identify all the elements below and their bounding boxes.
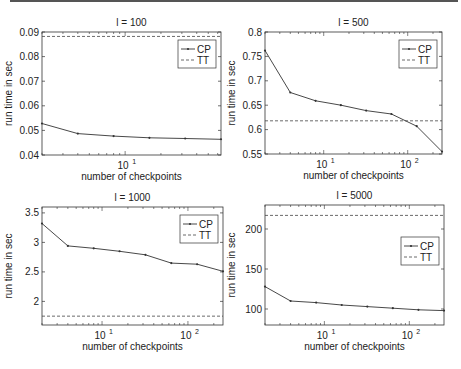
series-cp-marker <box>390 113 392 115</box>
series-cp-marker <box>77 132 79 134</box>
series-cp-marker <box>289 300 291 302</box>
series-cp-marker <box>341 304 343 306</box>
y-axis-label: run time in sec <box>226 232 237 297</box>
series-cp-marker <box>441 150 443 152</box>
y-tick-label: 0.06 <box>20 100 40 111</box>
x-tick-exponent: 2 <box>415 157 419 164</box>
y-tick-label: 0.8 <box>248 27 262 38</box>
x-axis-label: number of checkpoints <box>303 170 404 181</box>
series-cp-marker <box>340 104 342 106</box>
y-axis-label: run time in sec <box>3 61 14 126</box>
series-cp-marker <box>113 135 115 137</box>
y-tick-label: 2.5 <box>25 266 39 277</box>
series-cp-line <box>265 287 444 311</box>
x-axis-label: number of checkpoints <box>304 341 405 352</box>
series-cp-marker <box>315 302 317 304</box>
y-tick-label: 200 <box>245 224 262 235</box>
series-cp-marker <box>93 247 95 249</box>
series-cp-marker <box>184 137 186 139</box>
legend-label-tt: TT <box>418 55 430 66</box>
series-cp-marker <box>196 263 198 265</box>
y-tick-label: 0.75 <box>243 51 263 62</box>
y-tick-label: 3 <box>33 237 39 248</box>
series-cp-marker <box>41 222 43 224</box>
y-tick-label: 150 <box>245 264 262 275</box>
y-tick-label: 0.6 <box>248 124 262 135</box>
y-tick-label: 0.65 <box>243 100 263 111</box>
y-tick-label: 0.55 <box>243 149 263 160</box>
legend-label-cp: CP <box>418 44 432 55</box>
chart-title: l = 5000 <box>337 190 373 201</box>
series-cp-marker <box>443 310 445 312</box>
x-tick-exponent: 2 <box>416 328 420 335</box>
y-tick-label: 0.07 <box>20 76 40 87</box>
y-tick-label: 3.5 <box>25 207 39 218</box>
legend-label-cp: CP <box>199 219 213 230</box>
series-cp-marker <box>264 286 266 288</box>
subplot-2: l = 5000.550.60.650.70.750.8101102number… <box>226 17 443 181</box>
subplot-1: l = 1000.040.050.060.070.080.09101number… <box>3 17 222 182</box>
series-cp-marker <box>41 122 43 124</box>
series-cp-marker <box>417 309 419 311</box>
legend-label-tt: TT <box>197 55 209 66</box>
legend: CPTT <box>178 40 216 68</box>
y-tick-label: 0.04 <box>20 150 40 161</box>
x-tick-exponent: 1 <box>109 328 113 335</box>
legend: CPTT <box>399 40 437 68</box>
y-tick-label: 0.08 <box>20 51 40 62</box>
legend-label-tt: TT <box>199 230 211 241</box>
x-tick-label: 10 <box>180 330 192 341</box>
x-tick-exponent: 1 <box>331 157 335 164</box>
series-cp-marker <box>416 125 418 127</box>
series-cp-marker <box>67 245 69 247</box>
subplot-3: l = 100022.533.5101102number of checkpoi… <box>3 192 224 352</box>
x-tick-label: 10 <box>94 330 106 341</box>
x-axis-label: number of checkpoints <box>81 171 182 182</box>
chart-title: l = 100 <box>116 17 147 28</box>
figure-grid: l = 1000.040.050.060.070.080.09101number… <box>0 0 461 369</box>
series-cp-marker <box>264 49 266 51</box>
series-cp-marker <box>220 138 222 140</box>
series-cp-line <box>42 124 221 140</box>
chart-title: l = 1000 <box>115 192 151 203</box>
legend-label-cp: CP <box>197 44 211 55</box>
series-cp-marker <box>222 270 224 272</box>
y-tick-label: 2 <box>33 296 39 307</box>
x-tick-exponent: 2 <box>195 328 199 335</box>
x-tick-label: 10 <box>400 159 412 170</box>
x-axis-label: number of checkpoints <box>82 341 183 352</box>
x-tick-exponent: 1 <box>331 328 335 335</box>
y-tick-label: 0.7 <box>248 75 262 86</box>
series-cp-marker <box>314 100 316 102</box>
series-cp-marker <box>118 250 120 252</box>
y-axis-label: run time in sec <box>3 233 14 298</box>
y-tick-label: 100 <box>245 304 262 315</box>
chart-title: l = 500 <box>338 17 369 28</box>
x-tick-label: 10 <box>118 160 130 171</box>
legend: CPTT <box>401 237 439 265</box>
x-tick-exponent: 1 <box>132 158 136 165</box>
series-cp-marker <box>366 306 368 308</box>
legend-label-tt: TT <box>420 252 432 263</box>
subplot-4: l = 5000100150200101102number of checkpo… <box>226 190 445 352</box>
legend-label-cp: CP <box>420 241 434 252</box>
legend: CPTT <box>180 215 218 243</box>
series-cp-marker <box>392 307 394 309</box>
y-tick-label: 0.09 <box>20 27 40 38</box>
x-tick-label: 10 <box>317 330 329 341</box>
y-tick-label: 0.05 <box>20 125 40 136</box>
series-cp-marker <box>144 254 146 256</box>
series-cp-marker <box>289 91 291 93</box>
series-cp-marker <box>148 137 150 139</box>
y-axis-label: run time in sec <box>226 60 237 125</box>
series-cp-marker <box>365 109 367 111</box>
series-cp-marker <box>170 262 172 264</box>
x-tick-label: 10 <box>316 159 328 170</box>
x-tick-label: 10 <box>402 330 414 341</box>
